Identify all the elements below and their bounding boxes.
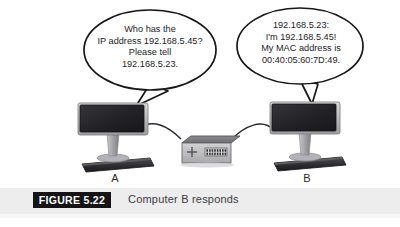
computer-b xyxy=(270,102,346,171)
computer-a xyxy=(78,103,154,172)
computer-b-stand-neck xyxy=(299,132,311,155)
computer-a-label: A xyxy=(105,172,125,184)
figure-number-tag: FIGURE 5.22 xyxy=(33,192,111,208)
computer-b-screen xyxy=(272,104,336,131)
figure-caption: Computer B responds xyxy=(128,193,239,205)
computer-a-screen xyxy=(80,105,144,132)
figure-page: Who has the IP address 192.168.5.45? Ple… xyxy=(0,0,400,227)
switch-port-bank xyxy=(205,148,227,156)
computer-a-stand-neck xyxy=(107,133,119,156)
speech-bubble-reply-text: 192.168.5.23: I'm 192.168.5.45! My MAC a… xyxy=(240,20,362,66)
computer-b-label: B xyxy=(297,172,317,184)
switch-top-face xyxy=(182,136,240,143)
caption-band-edge xyxy=(0,214,400,218)
switch-shadow xyxy=(180,163,234,168)
speech-bubble-request-text: Who has the IP address 192.168.5.45? Ple… xyxy=(88,24,212,70)
network-switch xyxy=(180,136,240,168)
